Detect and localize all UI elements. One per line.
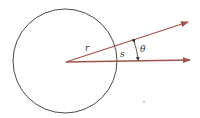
speck [143, 101, 145, 103]
arc-label: s [120, 49, 125, 59]
upper-ray [66, 22, 188, 62]
radius-label: r [85, 43, 90, 53]
angle-arc [134, 41, 138, 59]
angle-label: θ [140, 44, 146, 54]
lower-ray [66, 60, 190, 62]
circle-angle-diagram: r s θ [0, 0, 200, 118]
